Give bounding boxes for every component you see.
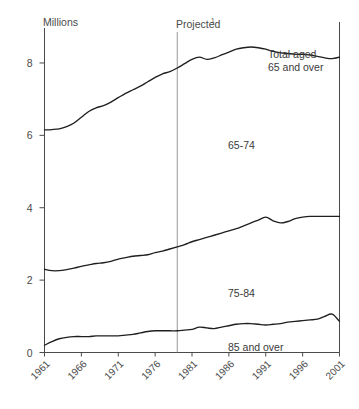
chart-figure: 02468 1961196619711976198119861991199620…: [0, 0, 359, 409]
series-line-85-over: [45, 314, 340, 345]
x-axis-tick-label: 1976: [139, 358, 163, 382]
x-axis-tick-label: 1971: [102, 358, 126, 382]
series-label-75-84: 75-84: [228, 287, 255, 299]
y-axis-tick-label: 8: [27, 57, 33, 69]
x-axis-tick-label: 1961: [28, 358, 52, 382]
series-label-85-over: 85 and over: [228, 341, 284, 353]
chart-series-group: [45, 47, 340, 345]
x-axis-tick-label: 1996: [287, 358, 311, 382]
x-axis-tick-labels: 196119661971197619811986199119962001: [28, 358, 347, 382]
x-axis-tick-label: 1966: [65, 358, 89, 382]
y-axis-tick-label: 2: [27, 274, 33, 286]
x-axis-tick-label: 2001: [323, 358, 347, 382]
y-axis-tick-label: 4: [27, 202, 33, 214]
series-label-total-line1: Total aged: [268, 48, 317, 60]
series-line-75-84: [45, 216, 340, 271]
y-axis-ticks: [40, 63, 45, 353]
y-axis-tick-label: 0: [27, 347, 33, 359]
x-axis-ticks: [45, 353, 340, 357]
projected-footnote-marker: 1: [211, 17, 215, 24]
x-axis-tick-label: 1991: [250, 358, 274, 382]
x-axis-tick-label: 1986: [213, 358, 237, 382]
series-label-65-74: 65-74: [228, 139, 255, 151]
chart-svg: 02468 1961196619711976198119861991199620…: [0, 0, 359, 409]
x-axis-tick-label: 1981: [176, 358, 200, 382]
y-axis-tick-label: 6: [27, 129, 33, 141]
y-axis-unit-label: Millions: [43, 16, 78, 28]
series-label-total-line2: 65 and over: [268, 61, 324, 73]
y-axis-tick-labels: 02468: [27, 57, 33, 359]
